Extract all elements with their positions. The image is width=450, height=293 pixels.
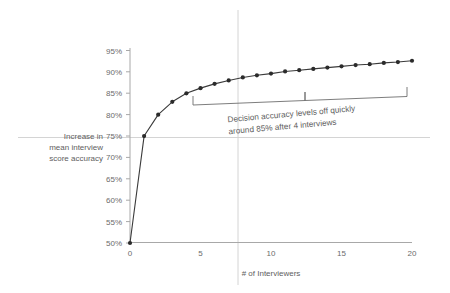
x-tick-label: 10 [267,249,276,258]
data-point [297,68,301,72]
y-tick-label: 75% [106,132,122,141]
data-point [396,60,400,64]
data-point [213,82,217,86]
y-axis-title-line: Increase in [64,132,103,141]
data-point [368,62,372,66]
interview-accuracy-line-chart: 95% 90% 85% 80% 75% 70% 65% 60% 55% 50% … [0,0,450,293]
data-point [410,59,414,63]
data-point [325,66,329,70]
y-tick-label: 60% [106,196,122,205]
data-point [283,69,287,73]
data-point [241,75,245,79]
y-tick-label: 80% [106,111,122,120]
data-point [142,134,146,138]
y-axis-title-line: mean interview [49,143,103,152]
y-tick-label: 85% [106,89,122,98]
data-point [354,63,358,67]
data-point [128,241,132,245]
x-tick-label: 0 [128,249,133,258]
data-point [339,64,343,68]
y-tick-label: 65% [106,175,122,184]
y-tick-label: 70% [106,153,122,162]
y-axis-title-line: score accuracy [49,154,103,163]
data-point [184,91,188,95]
data-point [227,78,231,82]
data-point [255,73,259,77]
x-tick-label: 5 [198,249,203,258]
data-point [382,61,386,65]
y-tick-label: 55% [106,218,122,227]
data-point [269,72,273,76]
data-point [198,86,202,90]
y-tick-label: 90% [106,68,122,77]
x-axis-title: # of Interviewers [242,269,301,278]
y-tick-label: 50% [106,239,122,248]
x-tick-label: 15 [337,249,346,258]
chart-container: 95% 90% 85% 80% 75% 70% 65% 60% 55% 50% … [0,0,450,293]
y-tick-label: 95% [106,47,122,56]
data-point [311,67,315,71]
data-point [170,100,174,104]
x-tick-label: 20 [408,249,417,258]
data-point [156,113,160,117]
